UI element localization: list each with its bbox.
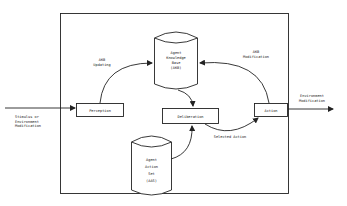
action-set-cylinder: Agent Action Set (AAS) [132,136,172,195]
akb-modification-label-1: AKB [253,50,260,54]
environment-modification-label-1: Environment [300,94,324,98]
aas-to-deliberation-arrow [171,126,192,159]
aas-line-2: Action [145,165,158,169]
perception-label: Perception [89,109,111,113]
action-node: Action [255,104,288,117]
action-label: Action [265,109,278,113]
perception-node: Perception [77,104,124,117]
akb-updating-arrow [100,63,152,103]
akb-line-4: (AKB) [171,66,182,70]
environment-modification-label-2: Modification [299,99,325,103]
aas-line-3: Set [148,172,155,176]
knowledge-base-cylinder: Agent Knowledge Base (AKB) [155,32,198,89]
akb-modification-label-2: Modification [243,55,269,59]
stimulus-label-3: Modification [15,124,41,128]
stimulus-label-1: Stimulus or [15,115,40,119]
akb-to-deliberation-arrow [178,90,193,106]
akb-line-1: Agent [171,51,182,55]
deliberation-node: Deliberation [163,109,219,124]
deliberation-label: Deliberation [178,115,204,119]
aas-line-1: Agent [146,158,157,162]
akb-updating-label-2: Updating [93,63,110,67]
agent-architecture-diagram: Stimulus or Environment Modification Per… [0,0,347,206]
stimulus-label-2: Environment [15,120,39,124]
akb-modification-arrow [200,63,269,104]
akb-updating-label-1: AKB [99,58,106,62]
selected-action-label: Selected Action [214,135,246,139]
akb-line-2: Knowledge [166,56,185,60]
aas-line-4: (AAS) [146,179,157,183]
akb-line-3: Base [172,61,181,65]
